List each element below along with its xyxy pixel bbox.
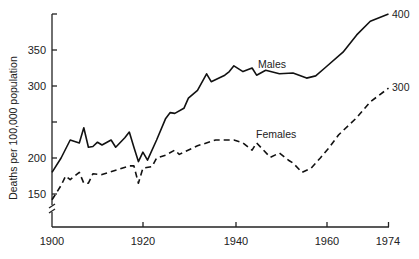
- females-end-label: 300: [392, 81, 410, 93]
- x-tick-1974: 1974: [376, 235, 400, 247]
- x-axis: 1900 1920 1940 1960 1974: [40, 222, 400, 247]
- males-end-label: 400: [392, 8, 410, 20]
- males-line: [52, 14, 389, 172]
- males-label: Males: [258, 58, 286, 70]
- y-axis: 350 300 200 150 Deaths per 100,000 popul…: [7, 14, 57, 227]
- x-tick-1960: 1960: [315, 235, 339, 247]
- x-tick-1900: 1900: [40, 235, 64, 247]
- x-tick-1940: 1940: [224, 235, 248, 247]
- y-tick-150: 150: [28, 188, 46, 200]
- y-tick-350: 350: [28, 44, 46, 56]
- x-tick-1920: 1920: [131, 235, 155, 247]
- line-chart: 350 300 200 150 Deaths per 100,000 popul…: [0, 0, 419, 259]
- females-label: Females: [256, 128, 296, 140]
- y-tick-200: 200: [28, 152, 46, 164]
- y-tick-300: 300: [28, 80, 46, 92]
- y-axis-title: Deaths per 100,000 population: [7, 56, 19, 200]
